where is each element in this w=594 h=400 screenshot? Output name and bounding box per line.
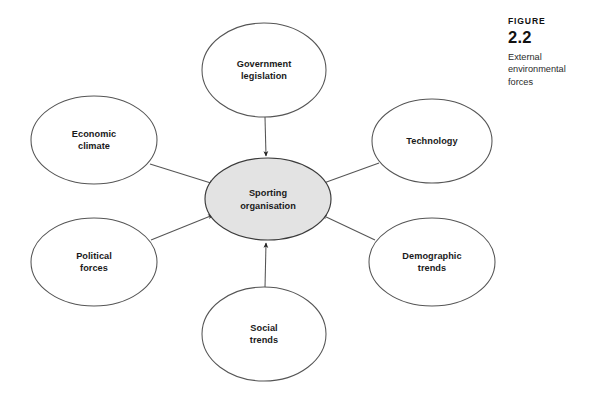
node-economic-climate[interactable] — [31, 96, 157, 184]
connector-demographic-trends — [322, 215, 375, 240]
diagram-svg — [0, 0, 500, 400]
node-demographic-trends[interactable] — [369, 218, 495, 306]
figure-description: External environmental forces — [508, 51, 590, 88]
connector-economic-climate — [150, 164, 214, 184]
figure-number: 2.2 — [508, 28, 590, 47]
node-social-trends[interactable] — [202, 287, 326, 381]
figure-label: FIGURE — [508, 16, 590, 27]
connector-social-trends — [265, 243, 266, 288]
diagram-canvas: Government legislation Technology Demogr… — [0, 0, 500, 400]
figure-caption: FIGURE 2.2 External environmental forces — [508, 16, 590, 88]
connector-political-forces — [151, 215, 213, 240]
connector-government-legislation — [265, 117, 266, 156]
node-sporting-organisation[interactable] — [205, 158, 331, 240]
node-government-legislation[interactable] — [202, 23, 326, 117]
figure-container: Government legislation Technology Demogr… — [0, 0, 594, 400]
node-technology[interactable] — [372, 99, 492, 183]
connector-technology — [321, 163, 379, 184]
node-political-forces[interactable] — [31, 218, 157, 306]
